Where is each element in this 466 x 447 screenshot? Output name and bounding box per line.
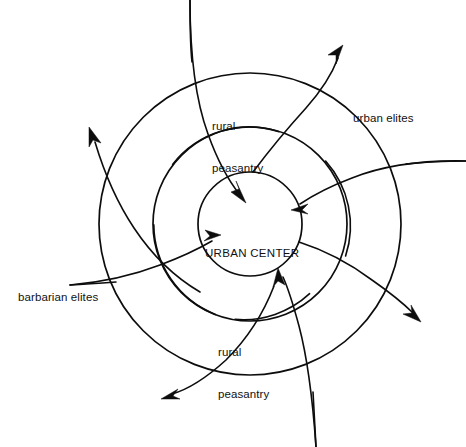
middle-arc-segment-3: [326, 161, 351, 256]
label-urban-elites: urban elites: [353, 83, 414, 153]
label-line: barbarian elites: [18, 290, 98, 304]
outflow-curve-lower-right: [299, 242, 413, 313]
outflow-arrowhead-lower-left: [161, 389, 180, 399]
label-line: urban elites: [353, 111, 414, 125]
tail-stroke-top: [190, 0, 192, 62]
label-barbarian-elites: barbarian elites: [18, 262, 98, 332]
label-line: rural: [218, 345, 269, 359]
label-line: URBAN CENTER: [205, 246, 299, 260]
label-line: peasantry: [218, 387, 269, 401]
outflow-arrowhead-lower-right: [403, 305, 421, 322]
inflow-curve-upper-right: [300, 161, 466, 204]
tail-stroke-right: [406, 161, 466, 164]
outflow-curve-upper-right: [253, 58, 338, 172]
label-urban-center: URBAN CENTER: [205, 218, 299, 288]
label-line: rural: [212, 119, 263, 133]
label-line: peasantry: [212, 161, 263, 175]
outflow-arrowhead-upper-right: [328, 45, 343, 64]
label-rural-peasantry-bottom: rural peasantry: [218, 317, 269, 429]
diagram-canvas: rural peasantry urban elites barbarian e…: [0, 0, 466, 447]
label-rural-peasantry-top: rural peasantry: [212, 91, 263, 203]
middle-arc-segment-4: [235, 294, 310, 320]
